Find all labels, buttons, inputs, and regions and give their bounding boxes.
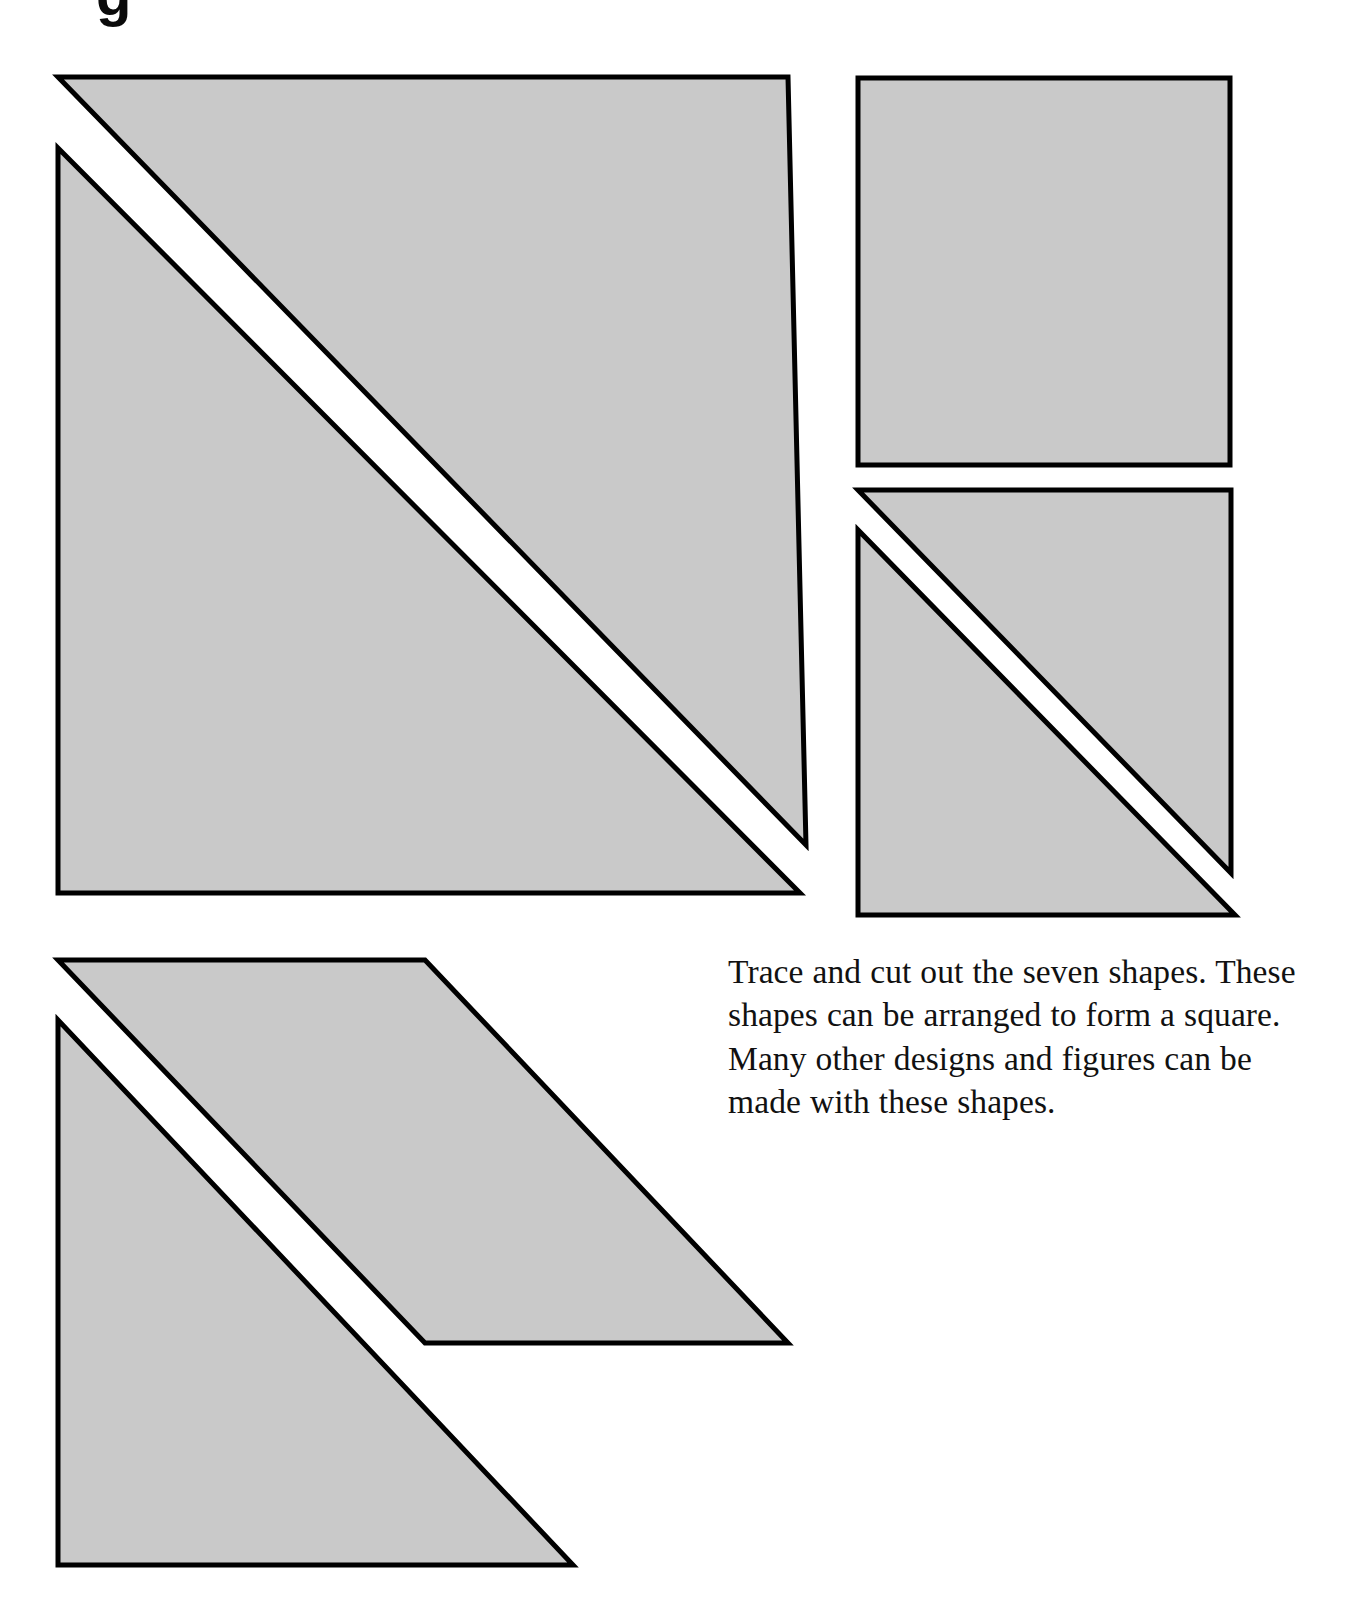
tangram-worksheet-page: g Trace and cut out the seven shapes. Th… xyxy=(0,0,1362,1610)
shape-group xyxy=(58,77,1235,1565)
instructions-text: Trace and cut out the seven shapes. Thes… xyxy=(728,950,1308,1124)
square xyxy=(858,78,1230,465)
tangram-shapes-canvas xyxy=(0,0,1362,1610)
